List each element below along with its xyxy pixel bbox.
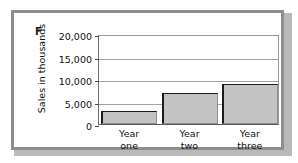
y-axis-tick-label: 0 bbox=[86, 121, 92, 132]
gridline bbox=[99, 59, 278, 60]
x-axis-tick-label: Yearthree bbox=[237, 128, 262, 151]
x-axis-tick-label: Yeartwo bbox=[179, 128, 199, 151]
figure-root: F Sales in thousands 05,00010,00015,0002… bbox=[0, 0, 298, 163]
plot-area: 05,00010,00015,00020,000 YearoneYeartwoY… bbox=[98, 35, 279, 125]
y-axis-tick bbox=[95, 59, 99, 60]
bar bbox=[222, 84, 278, 125]
y-axis-tick bbox=[95, 36, 99, 37]
y-axis-tick-label: 20,000 bbox=[59, 31, 92, 42]
y-axis-tick bbox=[95, 126, 99, 127]
y-axis-tick bbox=[95, 104, 99, 105]
bar bbox=[162, 93, 218, 125]
y-axis-tick-label: 5,000 bbox=[65, 98, 92, 109]
gridline bbox=[99, 81, 278, 82]
figure-frame: F Sales in thousands 05,00010,00015,0002… bbox=[11, 10, 284, 150]
y-axis-title: Sales in thousands bbox=[36, 21, 47, 117]
bar bbox=[101, 111, 157, 125]
y-axis-tick-label: 10,000 bbox=[59, 76, 92, 87]
y-axis-tick bbox=[95, 81, 99, 82]
x-axis-tick-label: Yearone bbox=[119, 128, 139, 151]
y-axis-tick-label: 15,000 bbox=[59, 53, 92, 64]
